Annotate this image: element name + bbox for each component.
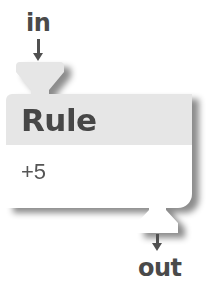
node-header: Rule	[6, 94, 192, 145]
input-port-label: in	[26, 11, 50, 35]
output-port-label: out	[138, 256, 182, 280]
output-arrow-icon	[156, 234, 159, 245]
input-arrow-icon	[37, 39, 40, 55]
rule-node[interactable]: Rule +5	[6, 94, 192, 208]
node-title: Rule	[21, 105, 97, 136]
output-port-connector[interactable]	[135, 206, 180, 233]
input-port-connector[interactable]	[16, 62, 64, 98]
node-body-value: +5	[21, 161, 46, 183]
